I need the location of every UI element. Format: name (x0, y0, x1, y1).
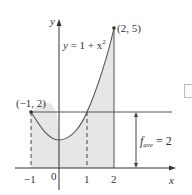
y-axis-arrow-icon (57, 19, 62, 26)
tick-label-0: 0 (51, 170, 57, 182)
function-label: y = 1 + x2 (62, 38, 106, 51)
x-axis-label: x (168, 174, 174, 186)
x-axis-arrow-icon (169, 166, 176, 171)
point-left-label: (−1, 2) (16, 97, 46, 110)
partial-icon-box (184, 84, 192, 98)
tick-label-2: 2 (111, 173, 117, 185)
point-right (112, 26, 116, 30)
fave-arrow-down-icon (134, 163, 138, 168)
tick-label-1: 1 (84, 173, 90, 185)
fave-label: fave = 2 (140, 134, 172, 149)
point-left (29, 110, 33, 114)
fave-arrow-up-icon (134, 112, 138, 117)
y-axis-label: y (49, 15, 55, 27)
average-value-figure: y x y = 1 + x2 (2, 5) (−1, 2) fave = 2 −… (0, 0, 192, 195)
point-right-label: (2, 5) (117, 22, 141, 35)
tick-label-neg1: −1 (24, 173, 36, 185)
